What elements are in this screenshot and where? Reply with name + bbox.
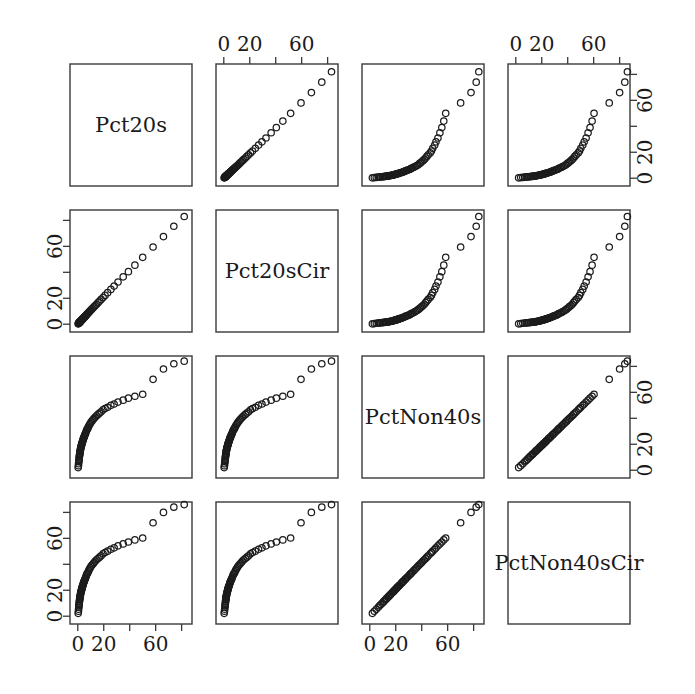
panel-frame <box>70 502 192 624</box>
diagonal-cell-Pct20sCir-Pct20sCir: Pct20sCir <box>216 210 338 332</box>
tick-label: 0 <box>43 318 67 331</box>
axis-left-row3: 02060 <box>43 512 70 622</box>
scatter-cell-PctNon40s-Pct20s <box>70 356 192 478</box>
panel-frame <box>362 64 484 186</box>
axis-top-col1: 02060 <box>217 32 327 64</box>
tick-label: 0 <box>633 464 657 477</box>
scatter-cell-Pct20s-PctNon40sCir <box>508 64 631 186</box>
scatter-cell-PctNon40s-PctNon40sCir <box>508 356 631 478</box>
tick-label: 20 <box>633 432 657 457</box>
axis-bottom-col2: 02060 <box>363 624 473 656</box>
tick-label: 0 <box>363 632 376 656</box>
panel-frame <box>508 64 630 186</box>
axis-top-col3: 02060 <box>509 32 619 64</box>
panel-frame <box>70 356 192 478</box>
tick-label: 20 <box>633 140 657 165</box>
panel-frame <box>216 502 338 624</box>
tick-label: 60 <box>143 632 168 656</box>
scatter-cell-Pct20sCir-PctNon40s <box>362 210 484 332</box>
tick-label: 0 <box>509 32 522 56</box>
tick-label: 60 <box>43 526 67 551</box>
variable-label: PctNon40s <box>365 405 481 429</box>
panel-frame <box>508 210 630 332</box>
tick-label: 0 <box>71 632 84 656</box>
variable-label: Pct20s <box>95 113 167 137</box>
variable-label: PctNon40sCir <box>494 551 644 575</box>
scatter-cell-Pct20sCir-PctNon40sCir <box>508 210 631 332</box>
scatter-cell-Pct20s-PctNon40s <box>362 64 484 186</box>
axis-right-row0: 02060 <box>630 74 657 184</box>
tick-label: 20 <box>529 32 554 56</box>
scatterplot-matrix: Pct20sPct20sCirPctNon40sPctNon40sCir0206… <box>0 0 695 694</box>
tick-label: 20 <box>237 32 262 56</box>
scatter-cell-PctNon40sCir-Pct20sCir <box>216 501 338 624</box>
tick-label: 60 <box>435 632 460 656</box>
axis-left-row1: 02060 <box>43 220 70 330</box>
scatter-cell-PctNon40sCir-Pct20s <box>70 501 192 624</box>
tick-label: 20 <box>91 632 116 656</box>
tick-label: 0 <box>633 172 657 185</box>
axis-right-row2: 02060 <box>630 366 657 476</box>
diagonal-cell-Pct20s-Pct20s: Pct20s <box>70 64 192 186</box>
tick-label: 60 <box>633 88 657 113</box>
scatter-cell-Pct20s-Pct20sCir <box>216 64 338 186</box>
tick-label: 20 <box>383 632 408 656</box>
scatter-cell-Pct20sCir-Pct20s <box>70 210 192 332</box>
tick-label: 0 <box>43 610 67 623</box>
panel-frame <box>216 356 338 478</box>
scatter-cell-PctNon40s-Pct20sCir <box>216 356 338 478</box>
tick-label: 60 <box>289 32 314 56</box>
axis-bottom-col0: 02060 <box>71 624 181 656</box>
diagonal-cell-PctNon40sCir-PctNon40sCir: PctNon40sCir <box>494 502 644 624</box>
tick-label: 20 <box>43 578 67 603</box>
tick-label: 60 <box>633 380 657 405</box>
tick-label: 20 <box>43 286 67 311</box>
diagonal-cell-PctNon40s-PctNon40s: PctNon40s <box>362 356 484 478</box>
variable-label: Pct20sCir <box>225 259 331 283</box>
scatter-cell-PctNon40sCir-PctNon40s <box>362 501 484 624</box>
tick-label: 60 <box>581 32 606 56</box>
panel-frame <box>362 210 484 332</box>
splom-canvas: Pct20sPct20sCirPctNon40sPctNon40sCir0206… <box>0 0 695 694</box>
tick-label: 0 <box>217 32 230 56</box>
tick-label: 60 <box>43 234 67 259</box>
